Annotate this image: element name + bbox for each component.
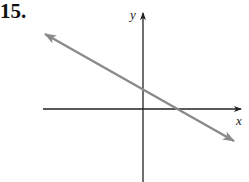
y-axis-label: y (128, 7, 136, 22)
graph: y x (0, 0, 249, 182)
x-axis-label: x (235, 113, 242, 128)
plotted-line (45, 34, 234, 141)
